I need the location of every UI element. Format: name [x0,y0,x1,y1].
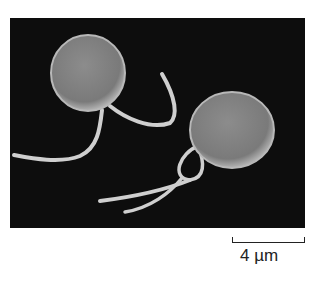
cell-1 [14,35,175,160]
scale-bar [232,237,305,243]
cells-illustration [10,18,305,228]
scale-bar-label: 4 µm [240,246,278,266]
cell-2 [100,92,274,212]
micrograph-image [10,18,305,228]
